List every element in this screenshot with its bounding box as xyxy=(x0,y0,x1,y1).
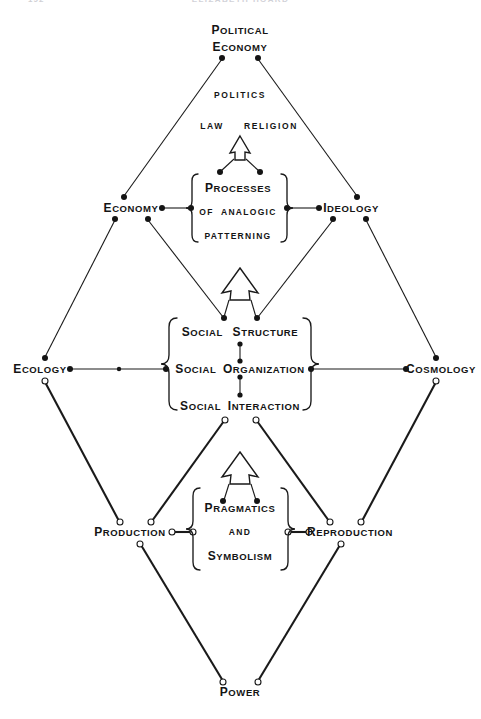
free-label-religion: RELIGION xyxy=(244,122,298,131)
box-line-social-interaction: Social Interaction xyxy=(180,400,300,412)
box-line-social-organization: Social Organization xyxy=(175,363,304,375)
node-label-ideology: Ideology xyxy=(323,202,379,214)
edge-ecology-to-social xyxy=(67,366,169,372)
box-line-social-structure: Social Structure xyxy=(182,326,299,338)
edge-organization-to-interaction xyxy=(237,374,242,397)
edge-cosmology-to-reproduction xyxy=(358,378,439,525)
box-line-symbolism: Symbolism xyxy=(208,550,273,562)
box-line-and: AND xyxy=(229,528,252,537)
node-label-political-economy-line1: Political xyxy=(211,24,268,36)
diagram-graphics: .ln{stroke:#1a1a1a;fill:none;stroke-widt… xyxy=(0,0,481,719)
node-label-cosmology: Cosmology xyxy=(406,363,476,375)
node-label-economy: Economy xyxy=(104,202,159,214)
edge-social-to-cosmology xyxy=(308,366,409,372)
edge-ideology-to-cosmology xyxy=(363,216,439,361)
free-label-law: LAW xyxy=(200,122,224,131)
node-label-ecology: Ecology xyxy=(13,363,66,375)
box-line-pragmatics: Pragmatics xyxy=(205,502,276,514)
free-label-politics: POLITICS xyxy=(214,91,266,100)
node-label-reproduction: Reproduction xyxy=(307,526,393,538)
edge-structure-to-organization xyxy=(237,341,242,363)
box-line-of-analogic: OF ANALOGIC xyxy=(199,208,276,217)
diagram-canvas: 192 ELIZABETH HOARD .ln{stroke:#1a1a1a;f… xyxy=(0,0,481,719)
arrow-up-small-upper xyxy=(217,136,263,175)
node-label-political-economy-line2: Economy xyxy=(213,41,268,53)
edge-economy-to-ecology xyxy=(42,216,118,361)
arrow-up-large-lower xyxy=(220,452,260,504)
node-label-power: Power xyxy=(220,686,261,698)
box-line-processes: Processes xyxy=(205,182,271,194)
arrow-up-large-middle xyxy=(222,268,258,317)
edge-reproduction-to-power xyxy=(255,541,344,685)
edge-ecology-to-production xyxy=(42,378,123,525)
box-line-patterning: PATTERNING xyxy=(205,232,272,241)
node-label-production: Production xyxy=(94,526,166,538)
